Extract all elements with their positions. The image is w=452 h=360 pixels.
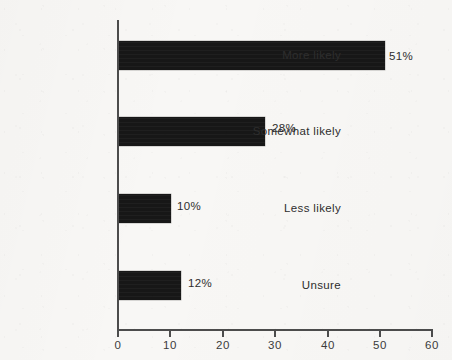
bar-value-label-less-likely: 10% — [177, 200, 201, 212]
bar-chart: 0 10 20 30 40 50 60 More likely 51% Some… — [0, 0, 452, 360]
x-axis-tick-10 — [169, 331, 171, 337]
bar-value-label-more-likely: 51% — [389, 50, 413, 62]
x-axis-tick-30 — [274, 331, 276, 337]
x-axis-tick-label: 60 — [425, 339, 439, 351]
x-axis-tick-20 — [222, 331, 224, 337]
bar-somewhat-likely — [118, 117, 265, 146]
bar-value-label-somewhat-likely: 28% — [272, 122, 296, 134]
category-label-somewhat-likely: Somewhat likely — [253, 125, 341, 137]
category-label-unsure: Unsure — [302, 279, 341, 291]
x-axis-tick-label: 20 — [216, 339, 230, 351]
x-axis-tick-label: 0 — [115, 339, 122, 351]
bar-value-label-unsure: 12% — [188, 277, 212, 289]
x-axis-tick-label: 50 — [373, 339, 387, 351]
x-axis-tick-40 — [327, 331, 329, 337]
bar-unsure — [118, 271, 181, 300]
x-axis-tick-label: 30 — [268, 339, 282, 351]
x-axis-tick-label: 10 — [163, 339, 177, 351]
bar-less-likely — [118, 194, 171, 223]
category-label-less-likely: Less likely — [284, 202, 341, 214]
x-axis-tick-60 — [431, 331, 433, 337]
x-axis-tick-label: 40 — [321, 339, 335, 351]
category-label-more-likely: More likely — [282, 49, 341, 61]
x-axis-tick-50 — [379, 331, 381, 337]
y-axis-line — [117, 20, 119, 331]
bar-more-likely — [118, 41, 385, 70]
x-axis-tick-0 — [117, 331, 119, 337]
